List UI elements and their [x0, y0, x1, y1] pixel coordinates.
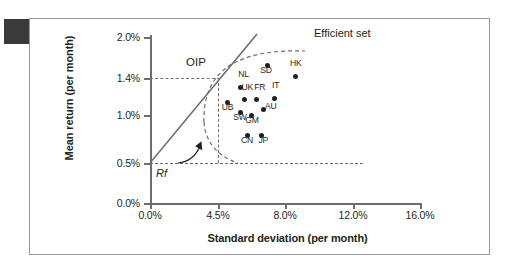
scatter-point-label-nl: NL: [238, 69, 249, 79]
scatter-point-fr: [254, 97, 259, 102]
rf-annotation: Rf: [156, 167, 167, 179]
rf-annotation-text: Rf: [156, 167, 167, 179]
scatter-point-label-gm: GM: [245, 115, 258, 125]
scatter-point-label-hk: HK: [290, 58, 302, 68]
scatter-point-label-ub: UB: [222, 102, 234, 112]
scatter-point-it: [272, 96, 277, 101]
scatter-point-uk: [242, 97, 247, 102]
figure-container: 2.0% 1.4% 1.0% 0.5% 0.0% 0.0% 4.5% 8.0% …: [0, 0, 516, 272]
rf-callout-arrow: [178, 146, 200, 163]
scatter-point-label-au: AU: [265, 101, 277, 111]
efficient-set-curve-lower: [204, 122, 238, 163]
oip-annotation: OIP: [186, 56, 206, 68]
scatter-point-label-jp: JP: [258, 135, 268, 145]
scatter-point-label-it: IT: [272, 80, 279, 90]
scatter-point-label-fr: FR: [254, 82, 265, 92]
scatter-point-label-sd: SD: [260, 65, 272, 75]
chart-plot-area: 2.0% 1.4% 1.0% 0.5% 0.0% 0.0% 4.5% 8.0% …: [0, 0, 516, 272]
rf-callout-arrowhead: [195, 140, 205, 150]
efficient-set-annotation: Efficient set: [314, 27, 371, 39]
scatter-point-label-uk: UK: [242, 82, 254, 92]
scatter-point-label-cn: CN: [241, 135, 253, 145]
